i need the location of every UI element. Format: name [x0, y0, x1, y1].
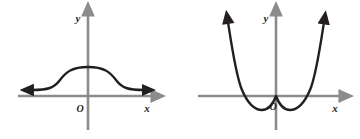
- y-axis-label: y: [74, 12, 81, 24]
- figure-container: y x O: [0, 0, 360, 139]
- origin-label: O: [76, 103, 83, 114]
- bell-curve-svg: y x O: [0, 0, 180, 139]
- quartic-w-curve-svg: y x O: [180, 0, 360, 139]
- x-axis-label: x: [143, 102, 150, 114]
- y-axis-label: y: [262, 12, 269, 24]
- quartic-w-curve-graph: y x O: [180, 0, 360, 139]
- origin-label: O: [269, 101, 276, 112]
- x-axis-label: x: [331, 102, 338, 114]
- bell-curve-graph: y x O: [0, 0, 180, 139]
